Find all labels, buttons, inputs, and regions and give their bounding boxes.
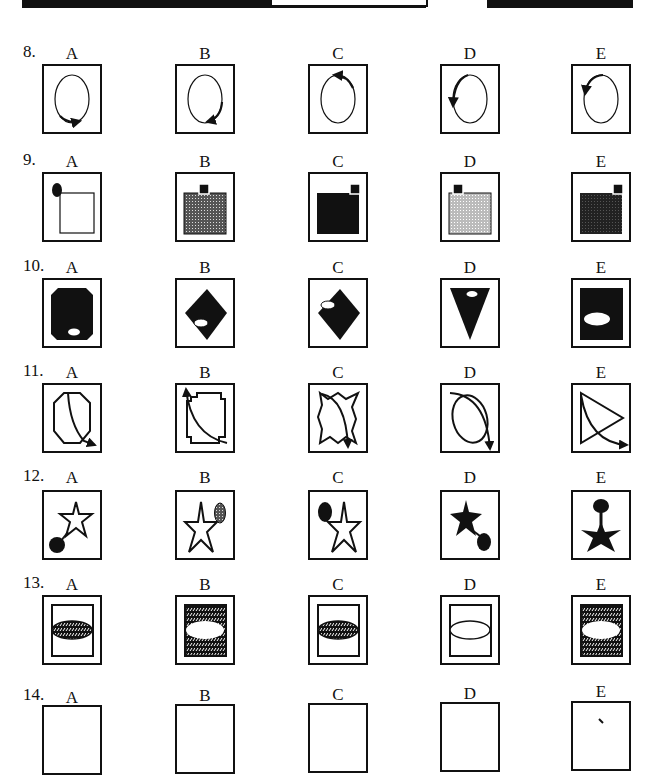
patterned-rect-oval-icon <box>573 597 629 663</box>
option-figure-11e[interactable] <box>571 383 631 453</box>
option-label: B <box>175 44 235 64</box>
black-star-oval-above-icon <box>573 492 629 558</box>
option-figure-10b[interactable] <box>175 278 235 348</box>
option-figure-14e[interactable] <box>571 701 631 771</box>
black-diamond-icon <box>310 280 366 346</box>
option-label: C <box>308 685 368 705</box>
option-figure-9e[interactable] <box>571 172 631 242</box>
black-triangle-icon <box>442 280 498 346</box>
option-figure-8d[interactable] <box>440 64 500 134</box>
stepped-square-arrow-icon <box>177 385 233 451</box>
question-number: 9. <box>23 150 36 170</box>
option-figure-9c[interactable] <box>308 172 368 242</box>
option-label: B <box>175 575 235 595</box>
oval-arrow-icon <box>310 66 366 132</box>
triangle-arrow-icon <box>573 385 629 451</box>
header-banner-right <box>487 0 633 8</box>
option-label: A <box>42 258 102 278</box>
option-figure-14a[interactable] <box>42 705 102 775</box>
option-figure-14b[interactable] <box>175 704 235 774</box>
octagon-arrow-icon <box>44 385 100 451</box>
oval-arrow-icon <box>442 66 498 132</box>
star-circle-icon <box>44 492 100 558</box>
option-figure-12d[interactable] <box>440 490 500 560</box>
black-octagon-icon <box>44 280 100 346</box>
jagged-shape-arrow-icon <box>310 385 366 451</box>
option-figure-13c[interactable] <box>308 595 368 665</box>
option-figure-8b[interactable] <box>175 64 235 134</box>
black-star-oval-icon <box>442 492 498 558</box>
option-label: A <box>42 468 102 488</box>
question-number: 11. <box>23 361 44 381</box>
option-label: C <box>308 44 368 64</box>
header-banner-blank <box>270 0 428 7</box>
option-figure-10a[interactable] <box>42 278 102 348</box>
grey-square-icon <box>177 174 233 240</box>
option-label: B <box>175 686 235 706</box>
option-label: D <box>440 152 500 172</box>
black-rectangle-icon <box>573 280 629 346</box>
rect-white-oval-icon <box>442 597 498 663</box>
oval-arrow-icon <box>573 66 629 132</box>
option-figure-11a[interactable] <box>42 383 102 453</box>
option-figure-10c[interactable] <box>308 278 368 348</box>
option-figure-13e[interactable] <box>571 595 631 665</box>
option-label: D <box>440 258 500 278</box>
option-figure-11c[interactable] <box>308 383 368 453</box>
option-label: C <box>308 363 368 383</box>
option-figure-13b[interactable] <box>175 595 235 665</box>
option-label: A <box>42 44 102 64</box>
light-grey-square-icon <box>442 174 498 240</box>
option-figure-11d[interactable] <box>440 383 500 453</box>
oval-arrow-icon <box>442 385 498 451</box>
option-label: A <box>42 152 102 172</box>
option-figure-9b[interactable] <box>175 172 235 242</box>
option-label: D <box>440 684 500 704</box>
black-diamond-icon <box>177 280 233 346</box>
option-figure-12e[interactable] <box>571 490 631 560</box>
rect-patterned-oval-icon <box>310 597 366 663</box>
option-label: E <box>571 575 631 595</box>
option-label: C <box>308 258 368 278</box>
option-figure-8a[interactable] <box>42 64 102 134</box>
option-label: D <box>440 575 500 595</box>
option-figure-10d[interactable] <box>440 278 500 348</box>
arrow-icon <box>573 703 629 769</box>
option-figure-14c[interactable] <box>308 703 368 773</box>
option-figure-12b[interactable] <box>175 490 235 560</box>
option-label: A <box>42 575 102 595</box>
option-figure-8e[interactable] <box>571 64 631 134</box>
option-label: A <box>42 363 102 383</box>
option-figure-12a[interactable] <box>42 490 102 560</box>
option-figure-14d[interactable] <box>440 702 500 772</box>
option-figure-11b[interactable] <box>175 383 235 453</box>
dark-square-icon <box>573 174 629 240</box>
option-label: D <box>440 44 500 64</box>
option-label: D <box>440 363 500 383</box>
option-label: B <box>175 258 235 278</box>
option-label: E <box>571 44 631 64</box>
option-label: C <box>308 468 368 488</box>
option-figure-9a[interactable] <box>42 172 102 242</box>
option-figure-9d[interactable] <box>440 172 500 242</box>
option-label: E <box>571 468 631 488</box>
option-label: B <box>175 468 235 488</box>
option-label: C <box>308 575 368 595</box>
option-label: C <box>308 152 368 172</box>
star-grey-oval-icon <box>177 492 233 558</box>
star-black-oval-icon <box>310 492 366 558</box>
option-label: E <box>571 363 631 383</box>
option-label: B <box>175 363 235 383</box>
patterned-rect-oval-icon <box>177 597 233 663</box>
rect-patterned-oval-icon <box>44 597 100 663</box>
black-square-icon <box>310 174 366 240</box>
option-figure-8c[interactable] <box>308 64 368 134</box>
oval-arrow-icon <box>177 66 233 132</box>
option-figure-10e[interactable] <box>571 278 631 348</box>
option-figure-13a[interactable] <box>42 595 102 665</box>
option-label: E <box>571 682 631 702</box>
option-label: D <box>440 468 500 488</box>
option-figure-13d[interactable] <box>440 595 500 665</box>
question-number: 8. <box>23 42 36 62</box>
option-figure-12c[interactable] <box>308 490 368 560</box>
